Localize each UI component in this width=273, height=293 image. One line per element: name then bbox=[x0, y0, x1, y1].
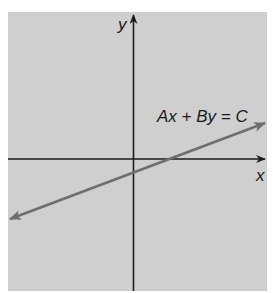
y-axis-label: y bbox=[117, 15, 128, 34]
plot-background bbox=[8, 12, 267, 291]
x-axis-label: x bbox=[255, 166, 265, 185]
line-equation-label: Ax + By = C bbox=[156, 107, 248, 126]
coordinate-plane-figure: y x Ax + By = C bbox=[0, 0, 273, 293]
